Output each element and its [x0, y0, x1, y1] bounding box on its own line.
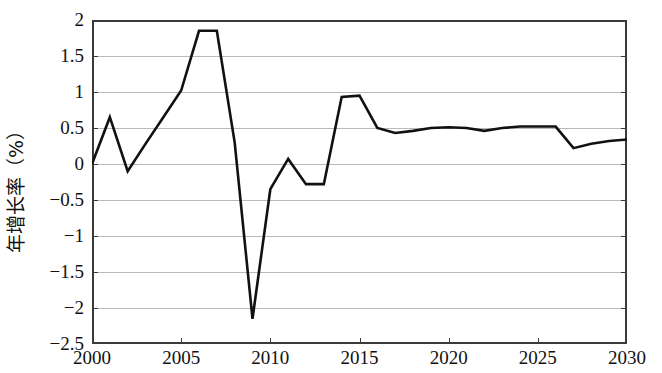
x-axis-tick-label: 2025 [519, 347, 557, 369]
data-series-line [92, 31, 627, 319]
plot-svg [92, 20, 627, 344]
chart-container: 年增长率（%） 21.510.50−0.5−1−1.5−2−2.5 200020… [0, 0, 662, 373]
plot-frame [93, 21, 626, 343]
x-axis-tick-label: 2015 [341, 347, 379, 369]
x-axis-tick-label: 2000 [73, 347, 111, 369]
x-axis-tick-label: 2020 [430, 347, 468, 369]
x-axis-tick-label: 2010 [251, 347, 289, 369]
axis-tick-marks [92, 21, 627, 345]
plot-area [92, 20, 627, 344]
x-axis-tick-label: 2030 [608, 347, 646, 369]
x-axis-tick-label: 2005 [162, 347, 200, 369]
